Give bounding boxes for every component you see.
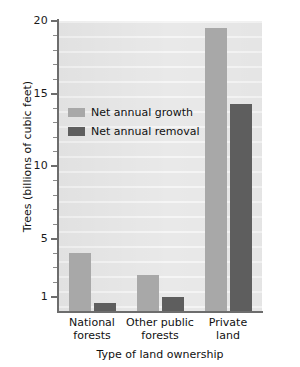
y-tick-minor <box>53 224 57 225</box>
y-tick-label: 20 <box>8 14 48 27</box>
y-tick-minor <box>53 79 57 80</box>
y-tick-minor <box>53 108 57 109</box>
x-category-label: Privateland <box>183 316 273 342</box>
y-axis-line <box>57 19 59 313</box>
bar-removal <box>230 104 252 311</box>
x-category-label-line1: Private <box>183 316 273 329</box>
legend-item-growth: Net annual growth <box>68 104 200 120</box>
y-tick-major <box>51 238 57 240</box>
y-tick-minor <box>53 195 57 196</box>
removal-swatch-icon <box>68 127 85 136</box>
y-tick-minor <box>53 35 57 36</box>
y-tick-minor <box>53 209 57 210</box>
bar-growth <box>137 275 159 311</box>
y-tick-minor <box>53 151 57 152</box>
y-tick-minor <box>53 122 57 123</box>
bar-removal <box>94 303 116 311</box>
bar-growth <box>69 253 91 311</box>
y-tick-minor <box>53 253 57 254</box>
plot-area <box>58 21 262 311</box>
x-axis-title: Type of land ownership <box>58 348 262 361</box>
y-tick-major <box>51 20 57 22</box>
y-tick-major <box>51 296 57 298</box>
y-tick-minor <box>53 180 57 181</box>
y-tick-major <box>51 93 57 95</box>
bar-chart-figure: 15101520 Net annual growth Net annual re… <box>0 0 300 367</box>
chart-legend: Net annual growth Net annual removal <box>68 104 200 142</box>
legend-label-removal: Net annual removal <box>91 125 200 138</box>
x-axis-line <box>57 311 263 313</box>
y-tick-label: 1 <box>8 290 48 303</box>
y-tick-major <box>51 165 57 167</box>
y-tick-minor <box>53 50 57 51</box>
legend-item-removal: Net annual removal <box>68 123 200 139</box>
y-tick-minor <box>53 64 57 65</box>
bar-growth <box>205 28 227 311</box>
x-category-label-line2: land <box>183 329 273 342</box>
y-tick-minor <box>53 267 57 268</box>
y-axis-title: Trees (billions of cubic feet) <box>21 57 34 257</box>
legend-label-growth: Net annual growth <box>91 106 193 119</box>
y-tick-minor <box>53 137 57 138</box>
bar-removal <box>162 297 184 312</box>
y-tick-minor <box>53 282 57 283</box>
growth-swatch-icon <box>68 108 85 117</box>
